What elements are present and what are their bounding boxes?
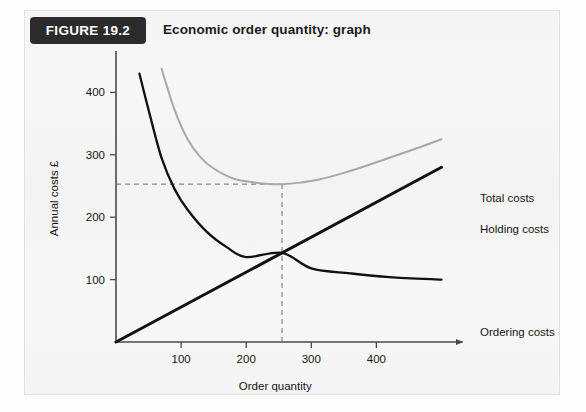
series-line-holding-costs [116,167,442,342]
y-axis-ticks: 100200300400 [86,86,116,285]
x-axis-title: Order quantity [239,380,312,392]
y-tick-label: 100 [86,274,105,286]
series-labels-group: Total costsHolding costsOrdering costs [480,192,555,338]
eoq-chart: 100200300400 100200300400 Total costsHol… [25,51,561,396]
series-label-total-costs: Total costs [480,192,535,204]
series-label-ordering-costs: Ordering costs [480,326,555,338]
screenshot-root: FIGURE 19.2 Economic order quantity: gra… [0,0,586,412]
x-tick-label: 400 [367,353,386,365]
series-line-total-costs [162,69,442,185]
x-tick-label: 100 [172,353,191,365]
y-tick-label: 200 [86,211,105,223]
plot-area: 100200300400 100200300400 Total costsHol… [25,51,561,396]
figure-panel: FIGURE 19.2 Economic order quantity: gra… [24,10,560,395]
guide-lines-group [116,184,282,342]
y-tick-label: 300 [86,149,105,161]
figure-header: FIGURE 19.2 Economic order quantity: gra… [25,11,559,51]
series-label-holding-costs: Holding costs [480,223,549,235]
y-tick-label: 400 [86,86,105,98]
figure-number-tag: FIGURE 19.2 [30,17,146,44]
x-tick-label: 300 [302,353,321,365]
x-tick-label: 200 [237,353,256,365]
y-axis-title: Annual costs £ [48,160,60,236]
series-paths-group [116,69,442,342]
figure-title: Economic order quantity: graph [163,22,371,37]
axes-group [116,51,463,342]
x-axis-ticks: 100200300400 [172,342,386,365]
